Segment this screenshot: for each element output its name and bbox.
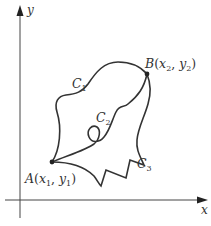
y-axis-arrow-icon <box>17 5 24 16</box>
point-a-marker <box>50 160 55 165</box>
x-axis-label: x <box>201 203 208 217</box>
curve-c3-label: C3 <box>137 156 152 173</box>
path-diagram: y x A(x1, y1) B(x2, y2) C1 C2 C3 <box>0 0 211 226</box>
curve-c3 <box>52 74 150 186</box>
y-axis-label: y <box>26 3 34 17</box>
curve-c1-label: C1 <box>72 76 87 93</box>
point-b-marker <box>145 72 150 77</box>
point-b-label: B(x2, y2) <box>144 56 196 73</box>
point-a-label: A(x1, y1) <box>24 171 76 188</box>
coordinate-axes <box>5 5 208 218</box>
curve-c2-label: C2 <box>96 110 111 127</box>
